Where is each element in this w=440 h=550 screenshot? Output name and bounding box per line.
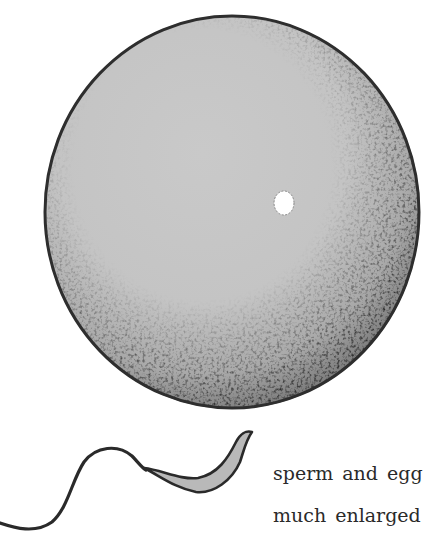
egg-nucleus: [274, 191, 294, 215]
sperm: [0, 431, 252, 529]
caption-line-1: sperm and egg: [273, 452, 423, 494]
sperm-tail: [0, 448, 146, 529]
egg: [44, 15, 420, 409]
figure-caption: sperm and egg much enlarged: [273, 452, 423, 536]
sperm-head: [144, 431, 252, 492]
caption-line-2: much enlarged: [273, 494, 423, 536]
